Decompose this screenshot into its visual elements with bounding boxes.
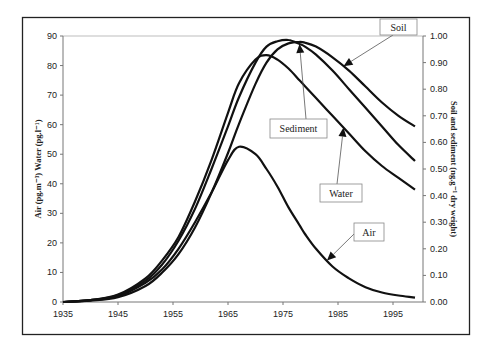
right-tick-label: 0.20	[430, 244, 448, 254]
right-tick-label: 0.80	[430, 84, 448, 94]
left-tick-label: 20	[47, 238, 57, 248]
x-tick-label: 1965	[218, 309, 238, 319]
right-tick-label: 0.60	[430, 137, 448, 147]
right-tick-label: 0.90	[430, 58, 448, 68]
x-tick-label: 1935	[53, 309, 73, 319]
right-tick-label: 0.40	[430, 191, 448, 201]
x-tick-label: 1955	[163, 309, 183, 319]
x-tick-label: 1975	[273, 309, 293, 319]
chart: 0102030405060708090 0.000.100.200.300.40…	[0, 0, 488, 352]
left-tick-label: 60	[47, 120, 57, 130]
left-tick-label: 70	[47, 90, 57, 100]
left-tick-label: 30	[47, 208, 57, 218]
callout-label: Air	[362, 227, 376, 238]
left-tick-label: 10	[47, 267, 57, 277]
right-tick-label: 0.30	[430, 217, 448, 227]
right-tick-label: 0.10	[430, 270, 448, 280]
x-tick-label: 1985	[328, 309, 348, 319]
left-tick-label: 0	[52, 297, 57, 307]
x-tick-label: 1945	[108, 309, 128, 319]
left-tick-label: 50	[47, 149, 57, 159]
right-axis-title: Soil and sediment (ng.g⁻¹ dry weight)	[449, 101, 459, 237]
right-tick-label: 1.00	[430, 31, 448, 41]
right-tick-label: 0.50	[430, 164, 448, 174]
right-tick-label: 0.00	[430, 297, 448, 307]
left-tick-label: 80	[47, 61, 57, 71]
left-axis-title: Air (pg.m⁻³) Water (pg.l⁻¹)	[33, 119, 43, 218]
left-tick-label: 90	[47, 31, 57, 41]
callout-label: Water	[329, 188, 353, 199]
callout-label: Sediment	[280, 123, 318, 134]
left-tick-label: 40	[47, 179, 57, 189]
chart-frame	[23, 18, 470, 335]
callout-label: Soil	[390, 22, 406, 33]
x-tick-label: 1995	[383, 309, 403, 319]
right-tick-label: 0.70	[430, 111, 448, 121]
